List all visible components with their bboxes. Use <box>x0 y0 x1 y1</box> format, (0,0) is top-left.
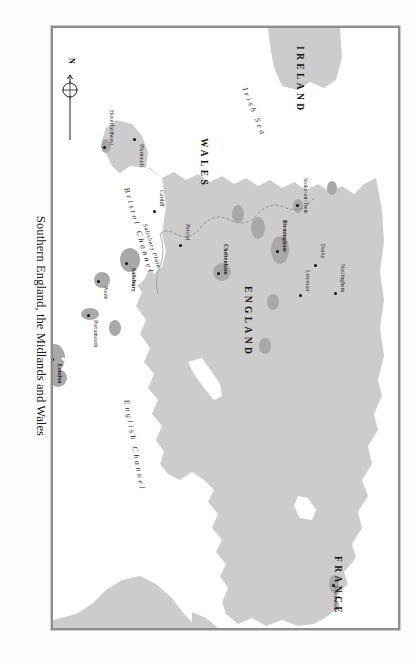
compass-north-label: N <box>67 58 76 64</box>
city-dot-leicester <box>299 294 302 297</box>
rotated-map-figure: N IRELAND WALES ENGLAND FRANCE Irish Sea… <box>10 12 410 652</box>
city-dot-stoke-on-trent <box>296 204 299 207</box>
country-label-ireland: IRELAND <box>294 46 304 114</box>
city-dot-plymouth <box>133 138 136 141</box>
city-dot-portsmouth <box>87 314 90 317</box>
city-dot-derby <box>314 264 317 267</box>
city-dot-london <box>51 358 54 361</box>
city-label-bristol: Bristol <box>184 224 190 240</box>
north-arrow-icon <box>60 68 80 142</box>
city-dot-bristol <box>179 244 182 247</box>
country-label-england: ENGLAND <box>242 286 252 357</box>
city-dot-norwich <box>332 584 335 587</box>
city-dot-cheltenham <box>217 272 220 275</box>
map-frame: N IRELAND WALES ENGLAND FRANCE Irish Sea… <box>51 26 400 630</box>
country-label-wales: WALES <box>198 138 208 188</box>
city-dot-poole <box>97 280 100 283</box>
city-label-london: London <box>56 364 62 384</box>
map-landmass-artwork <box>53 28 398 628</box>
city-label-poole: Poole <box>102 286 108 300</box>
city-label-derby: Derby <box>319 244 325 259</box>
city-label-stoke-on-trent: Stoke-on-Trent <box>302 178 308 214</box>
city-dot-cardiff <box>153 210 156 213</box>
figure-caption: Southern England, the Midlands and Wales <box>33 26 48 626</box>
city-label-haverfordwest: Haverfordwest <box>108 110 114 145</box>
north-arrow: N <box>60 68 80 142</box>
city-dot-salisbury <box>125 262 128 265</box>
city-dot-birmingham <box>276 250 279 253</box>
city-label-norwich: Norwich <box>332 590 338 611</box>
city-label-leicester: Leicester <box>304 270 310 292</box>
city-label-nottingham: Nottingham <box>339 264 345 292</box>
city-label-cardiff: Cardiff <box>158 190 164 207</box>
city-label-cheltenham: Cheltenham <box>222 244 228 275</box>
city-dot-haverfordwest <box>103 146 106 149</box>
city-label-portsmouth: Portsmouth <box>92 320 98 347</box>
city-label-plymouth: Plymouth <box>138 144 144 167</box>
figure-page: N IRELAND WALES ENGLAND FRANCE Irish Sea… <box>0 0 419 664</box>
city-label-birmingham: Birmingham <box>281 220 287 252</box>
city-label-salisbury: Salisbury <box>130 268 136 292</box>
city-dot-nottingham <box>334 292 337 295</box>
